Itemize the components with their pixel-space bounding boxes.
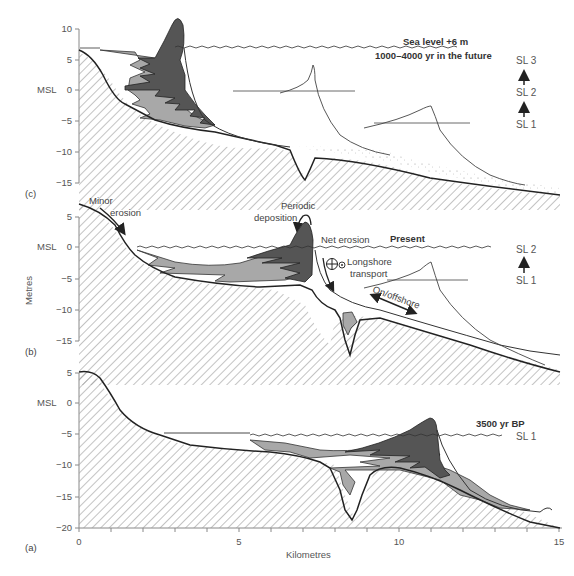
y-tick-label: −10 [56, 146, 72, 157]
sea-level-title: Sea level +6 m [403, 36, 468, 47]
y-tick-label: −15 [56, 491, 72, 502]
x-tick-label: 15 [554, 536, 565, 547]
x-tick-label: 10 [394, 536, 405, 547]
shoreface-profile-c [184, 48, 290, 147]
y-tick-label: −5 [61, 428, 72, 439]
coastal-evolution-diagram: 10 5 0 MSL −5 −10 −15 (c) Sea level +6 m… [0, 0, 574, 576]
periodic-deposition-label: deposition [254, 212, 297, 223]
y-tick-label: −15 [56, 335, 72, 346]
y-tick-label: −5 [61, 273, 72, 284]
y-axis-title: Metres [23, 276, 34, 305]
longshore-transport-label: Longshore [347, 256, 392, 267]
minor-erosion-label: erosion [110, 207, 141, 218]
sl1-label: SL 1 [516, 119, 537, 130]
sl1-label: SL 1 [516, 431, 537, 442]
y-tick-label: −5 [61, 115, 72, 126]
sl2-label: SL 2 [516, 244, 537, 255]
msl-label: MSL [37, 84, 57, 95]
panel-label: (a) [25, 542, 37, 553]
sl2-barrier-profile [280, 65, 390, 155]
panel-a: 5 0 MSL −5 −10 −15 −20 [25, 367, 564, 560]
y-tick-label: 5 [67, 367, 72, 378]
y-tick-label: −10 [56, 459, 72, 470]
periodic-deposition-label: Periodic [281, 200, 316, 211]
time-note: 1000–4000 yr in the future [375, 50, 492, 61]
bedrock-b [79, 205, 560, 385]
present-title: Present [390, 233, 426, 244]
panel-label: (c) [25, 188, 36, 199]
x-axis: 0 5 10 15 Kilometres [76, 528, 564, 560]
y-tick-label: 0 [67, 397, 72, 408]
y-tick-label: −15 [56, 177, 72, 188]
y-tick-label: 10 [61, 23, 72, 34]
minor-erosion-label: Minor [89, 195, 113, 206]
y-tick-label: 0 [67, 84, 72, 95]
time-title-a: 3500 yr BP [476, 418, 525, 429]
sea-level-line-a [250, 434, 502, 436]
y-tick-label: 5 [67, 54, 72, 65]
x-tick-label: 0 [76, 536, 81, 547]
y-tick-label: 0 [67, 241, 72, 252]
x-axis-title: Kilometres [286, 549, 331, 560]
panel-c: 10 5 0 MSL −5 −10 −15 (c) Sea level +6 m… [25, 19, 560, 211]
net-erosion-label: Net erosion [321, 234, 370, 245]
panel-b: 5 0 MSL −5 −10 −15 Metres (b) Minor eros… [23, 195, 560, 385]
msl-label: MSL [37, 397, 57, 408]
panel-label: (b) [25, 346, 37, 357]
sl-stack-c: SL 3 SL 2 SL 1 [516, 55, 537, 130]
sea-level-line-b [137, 246, 491, 248]
y-tick-label: 5 [67, 211, 72, 222]
x-tick-label: 5 [236, 536, 241, 547]
sl2-label: SL 2 [516, 87, 537, 98]
sl3-label: SL 3 [516, 55, 537, 66]
y-axis-c: 10 5 0 MSL −5 −10 −15 [37, 23, 79, 188]
sl1-label: SL 1 [516, 275, 537, 286]
y-tick-label: −10 [56, 304, 72, 315]
y-axis-a: 5 0 MSL −5 −10 −15 −20 [37, 367, 79, 533]
y-axis-b: 5 0 MSL −5 −10 −15 [37, 211, 79, 346]
longshore-transport-icon [327, 259, 346, 270]
sl-stack-b: SL 2 SL 1 [516, 244, 537, 286]
y-tick-label: −20 [56, 522, 72, 533]
msl-label: MSL [37, 241, 57, 252]
longshore-transport-label: transport [350, 268, 388, 279]
